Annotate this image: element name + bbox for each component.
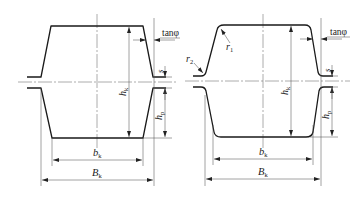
lower-profile-outline [27,88,166,138]
left-trapezoid-profile: tanφ s hk hp bk Bk [18,14,180,186]
hk-label: hk [279,86,291,95]
hp-label: hp [320,111,332,119]
bk-label: bk [259,146,268,158]
r1-label: r1 [226,41,233,53]
Bk-label: Bk [258,166,268,178]
Bk-label: Bk [92,167,102,179]
tanphi-label: tanφ [162,28,180,38]
hp-label: hp [153,112,165,120]
r2-leader-arrow [194,63,203,73]
hk-label: hk [117,87,129,96]
tanphi-label: tanφ [330,27,348,37]
s-label: s [155,69,165,73]
upper-profile-outline [27,26,166,77]
right-rounded-profile: tanφ s r1 r2 hk hp bk Bk [185,14,350,186]
r2-label: r2 [186,53,193,65]
die-profile-diagram: tanφ s hk hp bk Bk [0,0,361,198]
bk-label: bk [93,147,102,159]
s-label: s [322,68,332,72]
